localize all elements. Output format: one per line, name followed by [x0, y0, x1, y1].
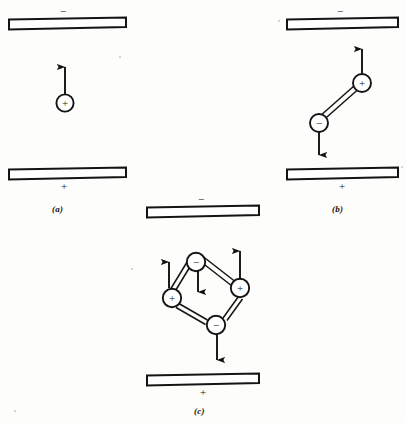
charge-sign-label: +: [237, 282, 243, 294]
panel-c: − −: [147, 193, 259, 398]
dipole-rod: [320, 86, 359, 121]
physics-figure: − + + −: [0, 0, 406, 423]
plate-body: [287, 168, 398, 180]
charge-sign-label: +: [169, 292, 175, 304]
scan-speck: [401, 166, 403, 168]
panel-b-top-plate: [287, 18, 398, 30]
rod-line: [320, 86, 355, 117]
panel-c-bottom-plate: [147, 374, 259, 386]
negative-charge: −: [310, 114, 328, 132]
rod-line: [203, 257, 235, 282]
scan-speck: [131, 268, 133, 270]
scan-speck: [14, 410, 16, 412]
plate-body: [147, 374, 259, 386]
positive-charge-right: +: [231, 279, 249, 297]
minus-sign: −: [337, 5, 343, 17]
minus-sign: −: [60, 5, 66, 17]
charge-sign-label: +: [62, 97, 68, 109]
panel-caption-a: (a): [52, 204, 63, 214]
negative-charge-top: −: [187, 253, 205, 271]
positive-charge-left: +: [163, 289, 181, 307]
scan-speck: [278, 20, 280, 22]
charge-sign-label: −: [316, 117, 322, 129]
panel-a-bottom-plate: [9, 168, 126, 180]
scan-speck: [119, 56, 121, 58]
plate-body: [9, 18, 126, 30]
charge-sign-label: +: [359, 77, 365, 89]
plate-body: [287, 18, 398, 30]
minus-sign: −: [198, 193, 204, 205]
negative-charge-bottom: −: [207, 316, 225, 334]
positive-charge: +: [56, 94, 73, 111]
plate-body: [147, 206, 259, 218]
panel-b: − + − +: [287, 5, 398, 192]
rod-line: [323, 90, 358, 121]
plus-sign: +: [339, 180, 345, 192]
panel-a: − + +: [9, 5, 126, 192]
panel-b-bottom-plate: [287, 168, 398, 180]
plus-sign: +: [200, 386, 206, 398]
charge-sign-label: −: [193, 256, 199, 268]
plate-body: [9, 168, 126, 180]
panel-caption-b: (b): [332, 204, 343, 214]
panel-a-top-plate: [9, 18, 126, 30]
charge-sign-label: −: [213, 319, 219, 331]
positive-charge: +: [353, 74, 371, 92]
panel-c-top-plate: [147, 206, 259, 218]
plus-sign: +: [61, 180, 67, 192]
panel-caption-c: (c): [194, 406, 205, 416]
